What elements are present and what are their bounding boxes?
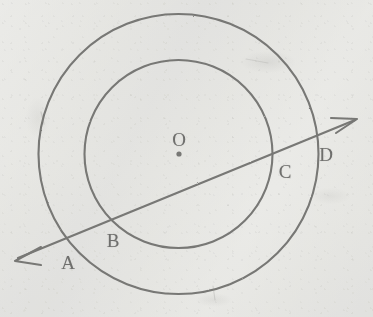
label-point-C: C — [279, 162, 292, 181]
arrowhead-left-icon — [15, 247, 41, 265]
diagram-canvas: O A B C D — [0, 0, 373, 317]
label-point-B: B — [107, 231, 120, 250]
secant-line-AD — [18, 120, 355, 258]
label-point-D: D — [319, 145, 333, 164]
label-point-A: A — [61, 253, 75, 272]
label-center-O: O — [172, 130, 186, 149]
geometry-figure — [0, 0, 373, 317]
center-point-dot — [176, 151, 181, 156]
